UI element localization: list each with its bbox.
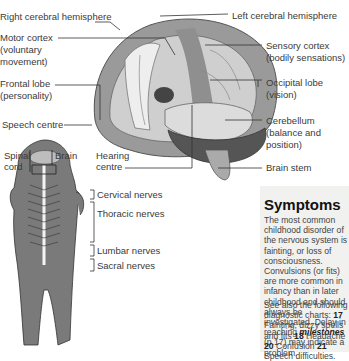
label-cerebellum-desc2: position) xyxy=(266,139,302,150)
label-sensory-cortex-desc: (bodily sensations) xyxy=(266,52,345,63)
symptoms-title: Symptoms xyxy=(264,196,341,213)
label-motor-cortex: Motor cortex xyxy=(0,32,53,43)
label-spinal-cord: Spinal xyxy=(4,150,30,161)
label-brain-stem: Brain stem xyxy=(266,162,311,173)
label-motor-cortex-desc2: movement) xyxy=(0,56,48,67)
label-occipital-lobe-desc: (vision) xyxy=(266,89,297,100)
label-cerebellum-desc1: (balance and xyxy=(266,127,321,138)
label-motor-cortex-desc1: (voluntary xyxy=(0,44,42,55)
see-also-paragraph: See also the following diagnostic charts… xyxy=(264,300,348,361)
chart-number: 18 xyxy=(294,331,304,341)
label-frontal-lobe-desc: (personality) xyxy=(0,90,52,101)
chart-label: Headache xyxy=(306,331,345,341)
chart-label: Confusion xyxy=(276,341,315,351)
label-speech-centre: Speech centre xyxy=(2,119,63,130)
label-occipital-lobe: Occipital lobe xyxy=(266,77,323,88)
label-cerebellum: Cerebellum xyxy=(266,115,315,126)
label-right-hemisphere: Right cerebral hemisphere xyxy=(0,11,111,22)
chart-number: 20 xyxy=(264,341,274,351)
chart-number: 17 xyxy=(333,310,343,320)
label-hearing-centre-2: centre xyxy=(96,161,122,172)
label-thoracic-nerves: Thoracic nerves xyxy=(97,208,165,219)
chart-number: 21 xyxy=(317,341,327,351)
label-frontal-lobe: Frontal lobe xyxy=(0,78,50,89)
label-brain: Brain xyxy=(55,150,77,161)
label-hearing-centre: Hearing xyxy=(96,150,129,161)
label-cervical-nerves: Cervical nerves xyxy=(97,189,162,200)
label-sacral-nerves: Sacral nerves xyxy=(97,260,155,271)
label-sensory-cortex: Sensory cortex xyxy=(266,40,329,51)
label-lumbar-nerves: Lumbar nerves xyxy=(97,245,160,256)
label-left-hemisphere: Left cerebral hemisphere xyxy=(232,10,337,21)
chart-label: Speech difficulties. xyxy=(264,351,336,361)
label-spinal-cord-2: cord xyxy=(4,161,22,172)
